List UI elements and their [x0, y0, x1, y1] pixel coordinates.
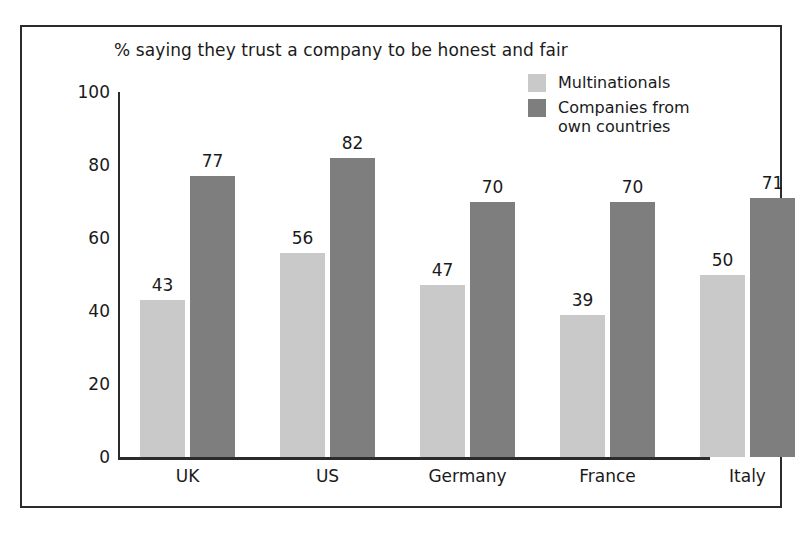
y-axis-tick-40: 40 [56, 301, 110, 321]
bar-germany-own-countries [470, 202, 515, 458]
x-axis-label-germany: Germany [428, 466, 506, 486]
bar-france-multinationals [560, 315, 605, 457]
bar-value-label: 47 [432, 260, 454, 280]
bar-us-multinationals [280, 253, 325, 457]
bar-value-label: 82 [342, 133, 364, 153]
bar-value-label: 71 [762, 173, 784, 193]
bar-value-label: 39 [572, 290, 594, 310]
bar-uk-own-countries [190, 176, 235, 457]
bar-value-label: 56 [292, 228, 314, 248]
bar-value-label: 70 [482, 177, 504, 197]
y-axis-tick-80: 80 [56, 155, 110, 175]
y-axis-tick-labels: 100806040200 [52, 0, 110, 535]
plot-area: 437756824770397050714567 [118, 92, 718, 457]
bar-us-own-countries [330, 158, 375, 457]
bar-france-own-countries [610, 202, 655, 458]
bar-value-label: 43 [152, 275, 174, 295]
x-axis-label-italy: Italy [729, 466, 766, 486]
bar-value-label: 77 [202, 151, 224, 171]
bar-uk-multinationals [140, 300, 185, 457]
y-axis-tick-0: 0 [56, 447, 110, 467]
x-axis-label-france: France [579, 466, 636, 486]
y-axis-tick-100: 100 [56, 82, 110, 102]
y-axis-tick-20: 20 [56, 374, 110, 394]
legend-label-multinationals: Multinationals [558, 73, 670, 92]
legend-swatch-multinationals [528, 74, 546, 92]
legend-item-multinationals: Multinationals [528, 73, 758, 92]
x-axis-label-us: US [316, 466, 339, 486]
bar-value-label: 70 [622, 177, 644, 197]
y-axis-tick-60: 60 [56, 228, 110, 248]
bar-italy-own-countries [750, 198, 795, 457]
bar-value-label: 50 [712, 250, 734, 270]
x-axis-label-uk: UK [176, 466, 200, 486]
chart-title: % saying they trust a company to be hone… [114, 40, 568, 60]
bar-germany-multinationals [420, 285, 465, 457]
x-axis-line [118, 457, 710, 460]
bar-italy-multinationals [700, 275, 745, 458]
